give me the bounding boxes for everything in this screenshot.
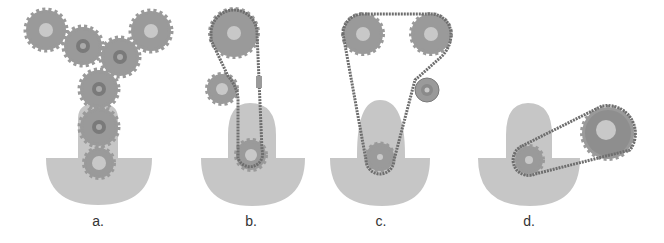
gear-lower	[80, 108, 118, 146]
gear-top-right	[131, 11, 171, 51]
gear-middle	[80, 70, 118, 108]
gear-crank	[84, 148, 114, 178]
panel-label-d: d.	[514, 213, 544, 229]
diagram-canvas	[0, 0, 664, 243]
panel-a	[26, 10, 171, 205]
panel-d	[478, 103, 635, 206]
chain-guide	[256, 76, 262, 88]
gear-top-left	[26, 10, 66, 50]
crank-sprocket-d	[515, 146, 543, 174]
panel-b	[201, 9, 305, 206]
panel-label-c: c.	[366, 213, 396, 229]
cam-sprocket	[210, 9, 258, 57]
crank-sprocket-c	[366, 143, 394, 171]
panel-label-b: b.	[236, 213, 266, 229]
panel-label-a: a.	[83, 213, 113, 229]
panel-c	[330, 14, 451, 206]
gear-top-mid	[64, 27, 102, 65]
idler-sprocket	[207, 74, 237, 104]
tensioner-pulley	[415, 78, 439, 102]
